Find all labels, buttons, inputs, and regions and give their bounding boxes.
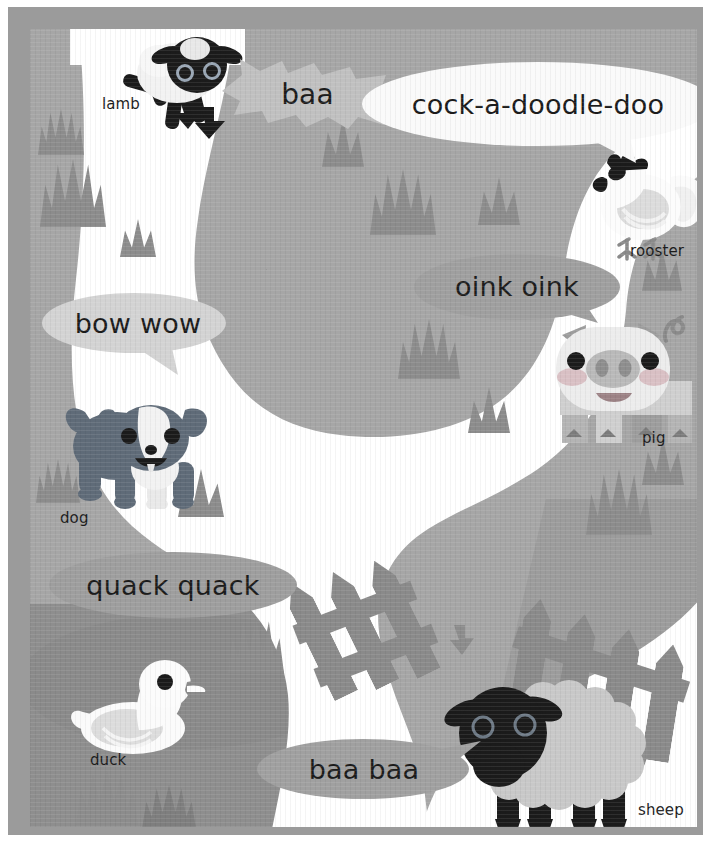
- illustration-page: lamb: [0, 0, 711, 850]
- duck-figure: [65, 654, 215, 764]
- speech-text-oink-oink: oink oink: [412, 247, 622, 325]
- speech-text-bow-wow: bow wow: [38, 287, 238, 359]
- speech-text-cock-a-doodle-doo: cock-a-doodle-doo: [360, 59, 697, 149]
- label-rooster: rooster: [630, 242, 684, 260]
- farm-field: lamb: [30, 29, 697, 827]
- page-frame: lamb: [8, 7, 703, 835]
- speech-text-baa-baa: baa baa: [255, 729, 473, 809]
- speech-text-quack-quack: quack quack: [48, 547, 298, 623]
- label-pig: pig: [642, 429, 666, 447]
- label-lamb: lamb: [102, 95, 140, 113]
- label-sheep: sheep: [638, 801, 684, 819]
- label-duck: duck: [90, 751, 126, 769]
- label-dog: dog: [60, 509, 89, 527]
- dog-figure: [55, 384, 235, 509]
